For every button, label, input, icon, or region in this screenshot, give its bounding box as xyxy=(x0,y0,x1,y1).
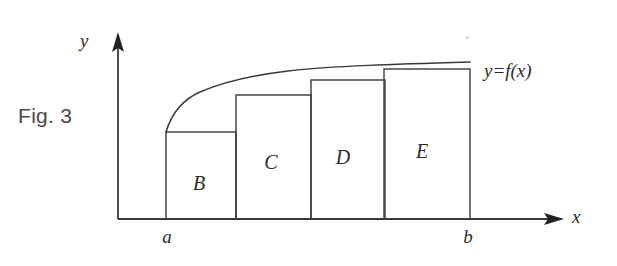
region-label-e: E xyxy=(416,140,428,163)
region-label-b: B xyxy=(193,172,205,195)
y-axis xyxy=(112,32,124,219)
scan-artifact-speck xyxy=(466,36,469,39)
figure-caption: Fig. 3 xyxy=(18,104,72,128)
region-label-d: D xyxy=(336,146,350,169)
x-tick-label-b: b xyxy=(463,226,473,248)
region-label-c: C xyxy=(264,151,277,174)
curve-function-label: y=f(x) xyxy=(484,60,532,82)
x-tick-label-a: a xyxy=(162,226,172,248)
riemann-sum-diagram xyxy=(0,0,617,266)
function-curve xyxy=(166,62,470,132)
y-axis-label: y xyxy=(80,30,88,52)
figure-container: Fig. 3 y x a b B C D E y=f(x) xyxy=(0,0,617,266)
x-axis-label: x xyxy=(572,206,580,228)
